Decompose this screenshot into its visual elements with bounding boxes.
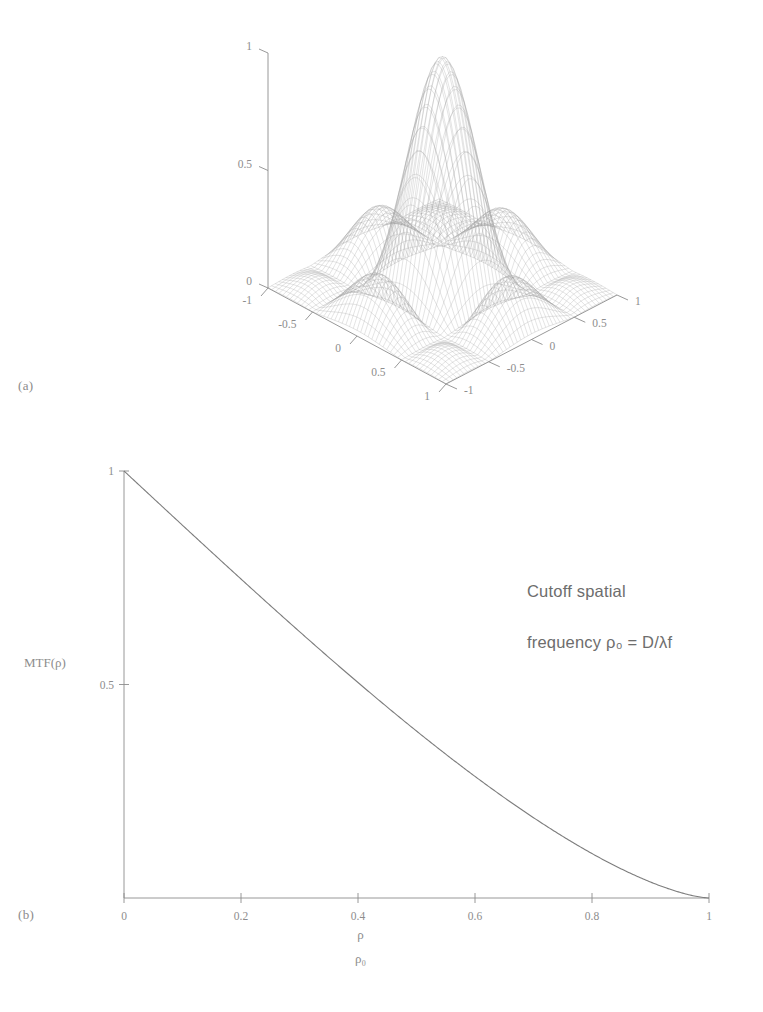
svg-text:0.6: 0.6 — [468, 910, 483, 922]
figure-root: 00.51-1-0.500.51-1-0.500.51 (a) 10.500.2… — [0, 0, 763, 1012]
svg-text:1: 1 — [706, 910, 712, 922]
mtf-plot-svg: 10.500.20.40.60.81 — [0, 455, 763, 1012]
svg-text:1: 1 — [424, 390, 430, 402]
surface-axis-labels: 00.51-1-0.500.51-1-0.500.51 — [238, 40, 641, 402]
svg-text:-0.5: -0.5 — [278, 318, 296, 330]
mtf-curve — [124, 471, 709, 898]
mtf-x-axis-numerator: ρ — [355, 923, 366, 947]
cutoff-annotation: Cutoff spatial frequency ρ₀ = D/λf — [527, 553, 672, 681]
mtf-x-axis-label: ρ ρ₀ — [355, 923, 366, 971]
surface-mesh — [268, 57, 617, 384]
surface-plot-svg: 00.51-1-0.500.51-1-0.500.51 — [0, 0, 763, 455]
svg-text:1: 1 — [635, 295, 641, 307]
mtf-y-axis-label: MTF(ρ) — [24, 655, 66, 671]
panel-b-mtf-plot: 10.500.20.40.60.81 MTF(ρ) ρ ρ₀ Cutoff sp… — [0, 455, 763, 1012]
svg-text:0.2: 0.2 — [234, 910, 249, 922]
mtf-axes — [124, 471, 709, 898]
svg-text:-0.5: -0.5 — [507, 362, 525, 374]
svg-text:0.5: 0.5 — [592, 317, 607, 329]
svg-text:0.5: 0.5 — [371, 366, 386, 378]
svg-text:0.4: 0.4 — [351, 910, 366, 922]
panel-b-label: (b) — [18, 907, 34, 923]
mtf-tick-marks — [119, 471, 709, 903]
cutoff-annotation-line2: frequency ρ₀ = D/λf — [527, 630, 672, 656]
svg-text:0.5: 0.5 — [238, 158, 253, 170]
svg-text:0: 0 — [550, 340, 556, 352]
panel-a-label: (a) — [18, 378, 33, 394]
svg-text:1: 1 — [108, 465, 114, 477]
svg-text:0: 0 — [335, 342, 341, 354]
mtf-x-axis-denominator: ρ₀ — [355, 947, 366, 971]
svg-text:0: 0 — [246, 275, 252, 287]
cutoff-annotation-line1: Cutoff spatial — [527, 579, 672, 605]
svg-text:1: 1 — [246, 40, 252, 52]
svg-text:-1: -1 — [242, 294, 252, 306]
panel-a-surface-plot: 00.51-1-0.500.51-1-0.500.51 (a) — [0, 0, 763, 455]
svg-text:0.8: 0.8 — [585, 910, 600, 922]
svg-text:0.5: 0.5 — [100, 679, 115, 691]
svg-text:0: 0 — [121, 910, 127, 922]
svg-text:-1: -1 — [464, 384, 474, 396]
